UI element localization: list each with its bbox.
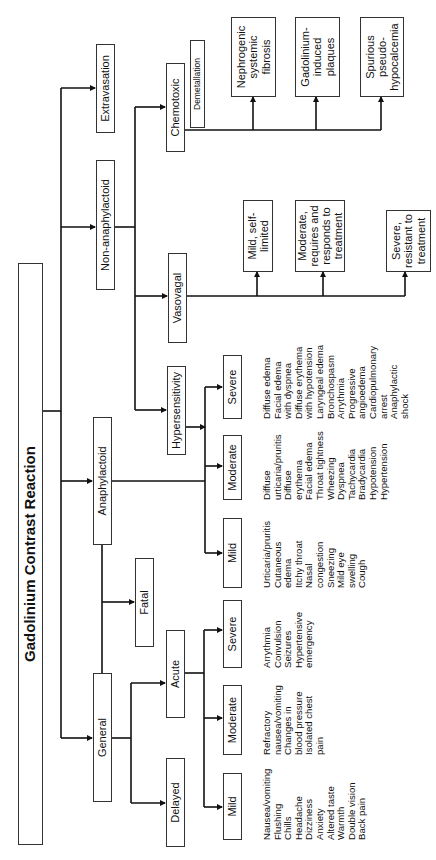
fatal-box: Fatal bbox=[135, 558, 154, 647]
outcome-vasovagal-moderate: Moderate, requires and responds to treat… bbox=[295, 200, 345, 272]
diagram-title: Gadolinium Contrast Reaction bbox=[18, 263, 43, 845]
hypersensitivity-moderate-symptoms: Diffuseurticaria/pruritisDiffuseerythema… bbox=[262, 431, 389, 500]
symptom-item: Diffuse bbox=[262, 431, 273, 500]
general-severe-symptoms: ArrythmiaConvulsionSeizuresHypertensivee… bbox=[262, 612, 315, 668]
symptom-item: congestion bbox=[315, 521, 326, 588]
symptom-item: Back pain bbox=[357, 769, 368, 840]
acute-box: Acute bbox=[166, 630, 185, 718]
general-severe-box: Severe bbox=[223, 600, 242, 668]
outcome-vasovagal-mild: Mild, self-limited bbox=[243, 200, 273, 272]
symptom-item: shock bbox=[400, 345, 411, 419]
vasovagal-box: Vasovagal bbox=[168, 253, 187, 343]
hypersensitivity-mild-symptoms: Urticaria/pruritisCutaneousedemaItchy th… bbox=[262, 521, 368, 588]
demetallation-box: Demetallation bbox=[190, 40, 205, 128]
general-mild-box: Mild bbox=[223, 773, 242, 840]
category-anaphylactoid: Anaphylactoid bbox=[93, 417, 112, 545]
hypersensitivity-severe-box: Severe bbox=[223, 355, 242, 419]
category-extravasation: Extravasation bbox=[96, 44, 115, 133]
category-non-anaphylactoid: Non-anaphylactoid bbox=[96, 160, 115, 290]
symptom-item: Arrythmia bbox=[262, 612, 273, 668]
hypersensitivity-moderate-box: Moderate bbox=[223, 435, 242, 500]
category-general: General bbox=[93, 673, 112, 802]
general-mild-symptoms: Nausea/vomitingFlushingChillsHeadacheDiz… bbox=[262, 769, 368, 840]
general-moderate-box: Moderate bbox=[223, 685, 242, 755]
connector-lines bbox=[0, 0, 436, 860]
symptom-item: pain bbox=[315, 685, 326, 755]
symptom-item: Cardiopulmonary bbox=[368, 345, 379, 419]
symptom-item: Diffuse edema bbox=[262, 345, 273, 419]
outcome-gadolinium-induced-plaques: Gadolinium-induced plaques bbox=[295, 17, 340, 97]
chemotoxic-box: Chemotoxic bbox=[166, 63, 185, 152]
symptom-item: Anxiety bbox=[315, 769, 326, 840]
symptom-item: Laryngeal edema bbox=[315, 345, 326, 419]
diagram-canvas: Gadolinium Contrast Reaction Extravasati… bbox=[0, 0, 436, 860]
symptom-item: Hypertension bbox=[379, 431, 390, 500]
hypersensitivity-severe-symptoms: Diffuse edemaFacial edemawith dyspneaDif… bbox=[262, 345, 410, 419]
general-moderate-symptoms: Refractorynausea/vomitingChanges inblood… bbox=[262, 685, 326, 755]
outcome-nephrogenic-systemic-fibrosis: Nephrogenic systemic fibrosis bbox=[231, 17, 276, 97]
outcome-vasovagal-severe: Severe, resistant to treatment bbox=[386, 210, 431, 272]
symptom-item: Refractory bbox=[262, 685, 273, 755]
symptom-item: Cough bbox=[357, 521, 368, 588]
symptom-item: Nausea/vomiting bbox=[262, 769, 273, 840]
outcome-spurious-pseudo-hypocalcemia: Spurious pseudo-hypocalcemia bbox=[360, 17, 404, 97]
symptom-item: Urticaria/pruritis bbox=[262, 521, 273, 588]
symptom-item: Hypotension bbox=[368, 431, 379, 500]
hypersensitivity-box: Hypersensitivity bbox=[167, 366, 186, 455]
symptom-item: Throat tightness bbox=[315, 431, 326, 500]
hypersensitivity-mild-box: Mild bbox=[223, 518, 242, 588]
delayed-box: Delayed bbox=[166, 758, 185, 847]
symptom-item: emergency bbox=[304, 612, 315, 668]
